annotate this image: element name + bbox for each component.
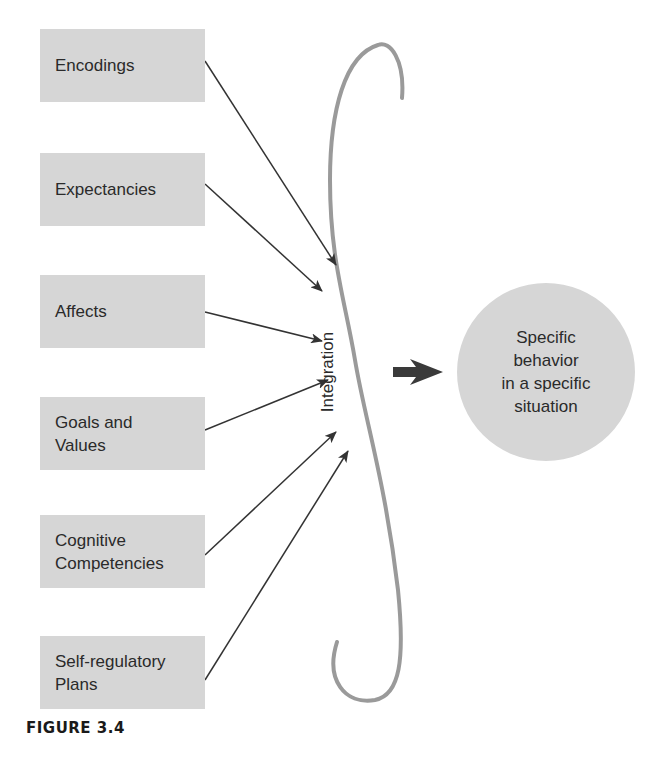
- input-box-self-regulatory-plans: Self-regulatory Plans: [40, 636, 205, 709]
- arrow-cognitive: [205, 432, 336, 555]
- arrow-encodings: [205, 61, 336, 265]
- input-box-encodings: Encodings: [40, 29, 205, 102]
- integration-label: Integration: [318, 332, 338, 412]
- input-box-cognitive-competencies: Cognitive Competencies: [40, 515, 205, 588]
- arrow-expectancies: [205, 184, 322, 291]
- output-circle: Specific behavior in a specific situatio…: [457, 283, 635, 461]
- integration-bracket: [330, 44, 402, 700]
- input-box-goals-values: Goals and Values: [40, 397, 205, 470]
- input-box-expectancies: Expectancies: [40, 153, 205, 226]
- figure-caption: FIGURE 3.4: [26, 719, 125, 737]
- arrow-self-regulatory: [205, 451, 348, 680]
- arrow-goals: [205, 380, 328, 430]
- output-arrow: [393, 359, 443, 385]
- input-box-affects: Affects: [40, 275, 205, 348]
- arrow-affects: [205, 312, 322, 341]
